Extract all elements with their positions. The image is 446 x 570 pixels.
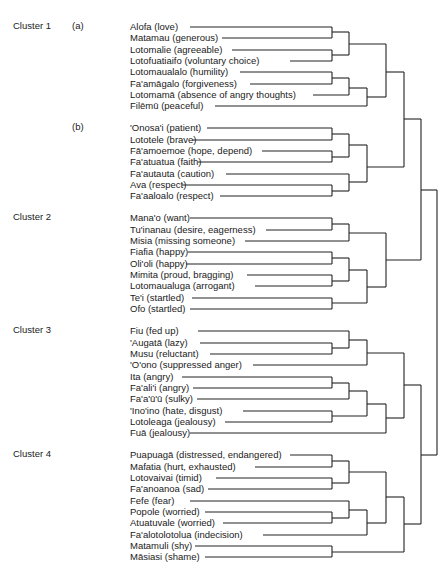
dendrogram-lines xyxy=(0,0,446,570)
